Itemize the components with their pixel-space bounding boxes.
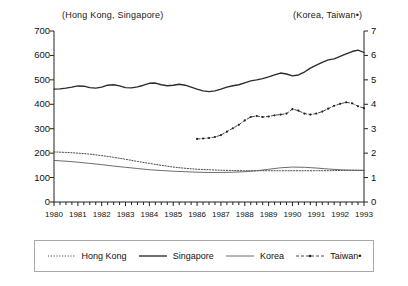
y-tick-label-right: 5 (371, 74, 391, 85)
y-tick-label-left: 100 (18, 172, 50, 183)
series-marker (357, 105, 359, 107)
y-tick-label-right: 2 (371, 147, 391, 158)
chart-legend: Hong KongSingaporeKoreaTaiwan• (34, 240, 374, 272)
series-marker (315, 112, 317, 114)
legend-item-korea[interactable]: Korea (225, 251, 284, 261)
y-tick-label-right: 6 (371, 49, 391, 60)
series-marker (250, 116, 252, 118)
series-marker (226, 131, 228, 133)
legend-label: Korea (260, 251, 284, 261)
series-marker (208, 137, 210, 139)
legend-swatch-dotted (47, 251, 77, 261)
series-marker (339, 103, 341, 105)
series-marker (297, 110, 299, 112)
legend-swatch-solid-thick (138, 251, 168, 261)
legend-label: Hong Kong (82, 251, 127, 261)
series-marker (214, 136, 216, 138)
series-marker (285, 112, 287, 114)
x-tick-label: 1993 (348, 210, 380, 219)
series-marker (262, 116, 264, 118)
series-marker (321, 111, 323, 113)
y-tick-label-left: 300 (18, 123, 50, 134)
series-marker (351, 102, 353, 104)
series-marker (327, 108, 329, 110)
series-marker (244, 119, 246, 121)
y-tick-label-left: 500 (18, 74, 50, 85)
legend-item-taiwan[interactable]: Taiwan• (295, 251, 361, 261)
series-marker (196, 138, 198, 140)
series-marker (238, 124, 240, 126)
series-marker (345, 101, 347, 103)
series-marker (273, 114, 275, 116)
series-marker (291, 108, 293, 110)
y-tick-label-left: 400 (18, 98, 50, 109)
legend-label: Taiwan• (330, 251, 361, 261)
series-marker (256, 115, 258, 117)
series-marker (232, 127, 234, 129)
series-line-singapore (54, 50, 364, 92)
legend-item-singapore[interactable]: Singapore (138, 251, 214, 261)
series-marker (333, 105, 335, 107)
series-marker (202, 137, 204, 139)
legend-item-hongkong[interactable]: Hong Kong (47, 251, 127, 261)
chart-figure: (Hong Kong, Singapore) (Korea, Taiwan•) … (0, 0, 408, 286)
y-tick-label-right: 1 (371, 172, 391, 183)
series-marker (363, 107, 365, 109)
series-marker (268, 115, 270, 117)
y-tick-label-right: 3 (371, 123, 391, 134)
y-tick-label-left: 600 (18, 49, 50, 60)
legend-swatch-solid-thin (225, 251, 255, 261)
legend-swatch-dash-dot (295, 251, 325, 261)
y-tick-label-left: 200 (18, 147, 50, 158)
y-tick-label-right: 7 (371, 25, 391, 36)
series-marker (309, 113, 311, 115)
y-tick-label-right: 4 (371, 98, 391, 109)
series-line-taiwan (197, 102, 364, 139)
series-marker (279, 113, 281, 115)
series-marker (303, 112, 305, 114)
y-tick-label-left: 700 (18, 25, 50, 36)
y-tick-label-right: 0 (371, 196, 391, 207)
y-tick-label-left: 0 (18, 196, 50, 207)
legend-label: Singapore (173, 251, 214, 261)
series-marker (220, 134, 222, 136)
